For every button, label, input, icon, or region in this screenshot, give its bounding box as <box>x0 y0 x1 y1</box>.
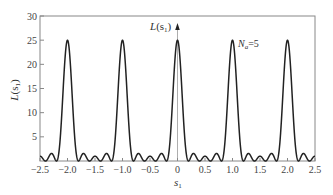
y-tick-label: 20 <box>27 59 37 70</box>
curve-label-arg: (s <box>156 20 164 33</box>
n-label: Na=5 <box>237 38 259 51</box>
x-tick-label: −2.0 <box>58 164 76 175</box>
x-tick-label: 0 <box>175 164 180 175</box>
y-axis-title-arg: (s <box>8 87 21 95</box>
curve-label-close: ) <box>168 20 172 33</box>
curve-label-l: L <box>149 20 156 32</box>
x-tick-label: 0.5 <box>199 164 212 175</box>
x-axis-title: s1 <box>174 176 182 190</box>
x-tick-label: −1.0 <box>113 164 131 175</box>
arrow-up-icon <box>175 23 180 30</box>
y-axis-title: L(s1) <box>8 79 22 102</box>
x-axis-title-sub: 1 <box>178 182 182 190</box>
n-label-value: =5 <box>248 38 259 49</box>
y-tick-label: 10 <box>27 107 37 118</box>
x-tick-label: 2.5 <box>309 164 322 175</box>
y-tick-label: 30 <box>27 11 37 22</box>
x-tick-label: 2.0 <box>281 164 294 175</box>
y-tick-label: 15 <box>27 83 37 94</box>
x-tick-label: 1.5 <box>254 164 267 175</box>
y-axis-title-l: L <box>8 95 20 102</box>
x-tick-label: −0.5 <box>141 164 159 175</box>
curve-label: L(s1) <box>149 20 172 34</box>
x-tick-label: 1.0 <box>226 164 239 175</box>
y-axis-title-close: ) <box>8 79 21 83</box>
y-tick-label: 25 <box>27 35 37 46</box>
chart: 51015202530 −2.5−2.0−1.5−1.0−0.500.51.01… <box>0 0 333 195</box>
x-tick-label: −2.5 <box>31 164 49 175</box>
y-tick-label: 5 <box>32 131 37 142</box>
x-tick-label: −1.5 <box>86 164 104 175</box>
y-axis-ticks: 51015202530 <box>27 11 44 143</box>
